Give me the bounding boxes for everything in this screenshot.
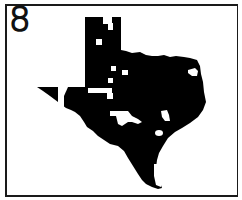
texas-map [0,0,242,200]
panel-number: 8 [9,2,31,36]
